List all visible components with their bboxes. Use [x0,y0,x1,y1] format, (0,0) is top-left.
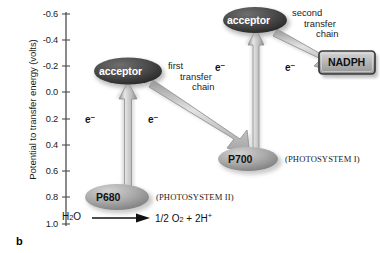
second-transfer-chain-label: second transfer chain [292,8,338,40]
y-tick-label: -0.6 [26,9,58,19]
nadph-label: NADPH [328,56,365,68]
reaction-products: 1/2 O2 + 2H+ [155,211,212,224]
water-splitting-arrow [92,213,150,222]
y-tick-label: 0.2 [26,114,58,124]
y-tick-label: 1.0 [26,219,58,229]
electron-label-3: e– [215,60,225,73]
y-tick-label: 0.4 [26,140,58,150]
acceptor-1-label: acceptor [99,65,142,77]
chain-line-1: second [292,8,338,19]
y-tick-label: 0.0 [26,87,58,97]
y-tick-label: 0.6 [26,166,58,176]
electron-label-1: e– [85,112,95,125]
excitation-arrow-p680 [116,80,140,198]
chain-line-1: first [168,61,214,72]
reaction-reactant: H2O [62,211,81,222]
acceptor-2-label: acceptor [227,14,270,26]
photosystem-1-annotation: (PHOTOSYSTEM I) [285,154,360,164]
electron-label-2: e– [148,112,158,125]
y-axis [62,12,70,226]
y-tick-label: -0.4 [26,35,58,45]
y-tick-label: 0.8 [26,192,58,202]
chain-line-3: chain [292,29,338,40]
y-tick-label: -0.2 [26,61,58,71]
figure-label: b [16,235,23,247]
electron-label-4: e– [285,60,295,73]
p680-label: P680 [96,191,120,203]
figure-canvas: Potential to transfer energy (volts) -0.… [0,0,380,253]
photosystem-2-annotation: (PHOTOSYSTEM II) [156,192,234,202]
first-transfer-chain-label: first transfer chain [168,61,214,93]
p700-label: P700 [228,153,252,165]
chain-line-3: chain [168,82,214,93]
